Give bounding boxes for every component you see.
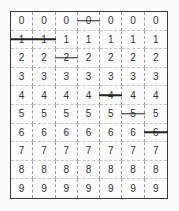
digit-cell[interactable]: 0 [33,12,55,31]
digit-cell[interactable]: 0 [78,12,100,31]
digit-cell[interactable]: 4 [11,86,33,105]
digit-cell[interactable]: 0 [122,12,144,31]
digit-cell[interactable]: 8 [11,161,33,180]
digit-cell[interactable]: 9 [78,179,100,198]
digit-cell[interactable]: 3 [33,68,55,87]
digit-cell[interactable]: 8 [122,161,144,180]
digit-cell[interactable]: 2 [78,49,100,68]
digit-cell[interactable]: 1 [100,31,122,50]
digit-cell[interactable]: 1 [33,31,55,50]
digit-cell[interactable]: 6 [11,124,33,143]
digit-cell[interactable]: 3 [78,68,100,87]
digit-cell[interactable]: 8 [33,161,55,180]
digit-cell[interactable]: 0 [100,12,122,31]
digit-cell[interactable]: 7 [33,142,55,161]
digit-cell[interactable]: 1 [11,31,33,50]
digit-cell[interactable]: 5 [33,105,55,124]
digit-grid: 0000000111111122222223333333444444455555… [10,11,168,199]
digit-cell[interactable]: 7 [11,142,33,161]
digit-cell[interactable]: 1 [122,31,144,50]
digit-cell[interactable]: 4 [145,86,167,105]
digit-cell[interactable]: 9 [11,179,33,198]
digit-cell[interactable]: 8 [56,161,78,180]
digit-cell[interactable]: 3 [145,68,167,87]
digit-cell[interactable]: 3 [11,68,33,87]
digit-cell[interactable]: 7 [122,142,144,161]
digit-cell[interactable]: 6 [56,124,78,143]
digit-cell[interactable]: 5 [56,105,78,124]
digit-cell[interactable]: 1 [56,31,78,50]
digit-cell[interactable]: 2 [145,49,167,68]
digit-cell[interactable]: 6 [33,124,55,143]
digit-cell[interactable]: 0 [11,12,33,31]
digit-cell[interactable]: 9 [56,179,78,198]
digit-cell[interactable]: 6 [78,124,100,143]
digit-cell[interactable]: 5 [122,105,144,124]
digit-cell[interactable]: 3 [56,68,78,87]
digit-cell[interactable]: 9 [33,179,55,198]
digit-cell[interactable]: 3 [100,68,122,87]
digit-cell[interactable]: 4 [122,86,144,105]
digit-cell[interactable]: 5 [145,105,167,124]
digit-cell[interactable]: 8 [145,161,167,180]
digit-cell[interactable]: 9 [145,179,167,198]
digit-cell[interactable]: 7 [100,142,122,161]
digit-cell[interactable]: 3 [122,68,144,87]
digit-cell[interactable]: 4 [78,86,100,105]
digit-cell[interactable]: 5 [100,105,122,124]
digit-cell[interactable]: 2 [11,49,33,68]
digit-cell[interactable]: 6 [100,124,122,143]
digit-cell[interactable]: 0 [145,12,167,31]
digit-cell[interactable]: 8 [78,161,100,180]
digit-cell[interactable]: 8 [100,161,122,180]
digit-cell[interactable]: 0 [56,12,78,31]
digit-cell[interactable]: 4 [100,86,122,105]
digit-cell[interactable]: 7 [56,142,78,161]
digit-cell[interactable]: 2 [122,49,144,68]
digit-cell[interactable]: 1 [78,31,100,50]
digit-cell[interactable]: 4 [56,86,78,105]
digit-cell[interactable]: 6 [145,124,167,143]
digit-cell[interactable]: 2 [100,49,122,68]
digit-cell[interactable]: 1 [145,31,167,50]
digit-cell[interactable]: 9 [122,179,144,198]
digit-cell[interactable]: 4 [33,86,55,105]
digit-cell[interactable]: 7 [78,142,100,161]
digit-cell[interactable]: 2 [33,49,55,68]
digit-cell[interactable]: 5 [78,105,100,124]
digit-cell[interactable]: 7 [145,142,167,161]
digit-cell[interactable]: 6 [122,124,144,143]
digit-cell[interactable]: 2 [56,49,78,68]
digit-cell[interactable]: 9 [100,179,122,198]
digit-cell[interactable]: 5 [11,105,33,124]
